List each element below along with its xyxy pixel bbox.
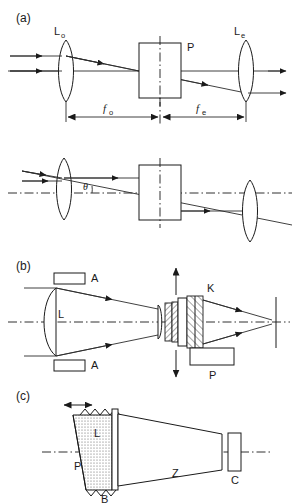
tube-Z-label: Z [172,467,179,479]
panel-c-label: (c) [16,389,30,403]
figure-root: (a) L o P L e [0,0,301,504]
camera-C-label: C [231,474,239,486]
tube-Z-c [118,414,222,486]
focal-eyepiece-label-sub: e [202,108,206,117]
lens-L-label: L [58,308,64,320]
crystal-K-label: K [207,282,215,294]
objective-lens-label: L [54,25,60,37]
focal-eyepiece-label: f [196,102,201,114]
optical-figure: (a) L o P L e [0,0,301,504]
crystal-housing [178,298,187,346]
mount-P-b [190,348,234,365]
output-cone-top-arrow [203,300,242,311]
focal-objective-label: f [103,102,108,114]
panel-a-upper: L o P L e [8,25,286,124]
panel-a-label: (a) [16,11,31,25]
camera-C-c [228,433,241,471]
crystal-plate-3 [172,302,178,342]
objective-lens-a-lower [57,158,72,220]
panel-b: (b) L A A K [8,259,290,381]
window-L-label: L [94,427,100,439]
objective-lens-label-sub: o [61,31,65,40]
crystal-plate-1 [158,305,162,339]
output-cone-bottom-arrow [203,333,242,344]
bellows-B-label: B [101,493,108,504]
flange-c [112,409,118,490]
panel-c: (c) P L B Z C [16,389,272,504]
mount-P-label: P [209,369,216,381]
plate-P-label: P [187,41,194,53]
prism-P-label: P [74,460,81,472]
cone-ray-top-arrow [56,288,112,300]
prism-P-c [73,415,112,490]
aperture-A-bottom [54,360,85,371]
eyepiece-lens-a-lower [243,180,258,242]
aperture-A-bottom-label: A [91,359,99,371]
lens-L-b [44,288,56,356]
panel-a: (a) L o P L e [8,11,292,242]
crystal-plate-2 [165,303,172,341]
panel-b-label: (b) [16,259,31,273]
crystal-stack-K [158,296,203,348]
eyepiece-lens-label-sub: e [241,31,245,40]
theta-label: θ [83,181,88,192]
aperture-A-top-label: A [91,272,99,284]
cone-ray-bottom-arrow [56,345,112,357]
aperture-A-top [54,273,85,284]
eyepiece-lens-label: L [234,25,240,37]
focal-objective-label-sub: o [109,108,113,117]
panel-a-lower: θ [8,158,292,242]
